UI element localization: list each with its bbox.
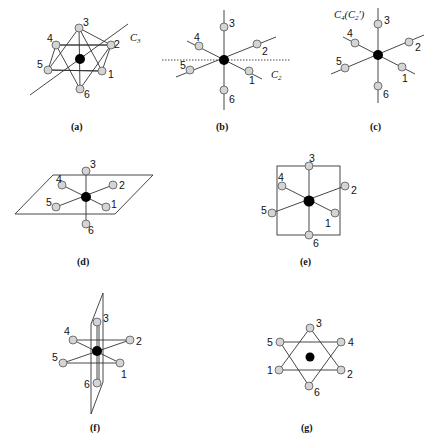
label-3: 3 bbox=[90, 158, 96, 170]
label-6: 6 bbox=[314, 386, 320, 398]
ligand-6 bbox=[305, 231, 313, 239]
label-5: 5 bbox=[336, 55, 342, 67]
ligand-4 bbox=[337, 338, 345, 346]
label-4: 4 bbox=[64, 325, 70, 337]
ligand-4 bbox=[52, 41, 60, 49]
label-6: 6 bbox=[84, 378, 90, 390]
ligand-5 bbox=[276, 338, 284, 346]
panel-b: 3 4 2 5 1 6 C2 (b) bbox=[162, 10, 290, 133]
ligand-1 bbox=[98, 67, 106, 75]
face-triangle-1 bbox=[48, 28, 102, 71]
ligand-2 bbox=[253, 40, 261, 48]
label-2: 2 bbox=[114, 38, 120, 50]
caption-f: (f) bbox=[90, 422, 100, 434]
ligand-1 bbox=[102, 203, 110, 211]
label-4: 4 bbox=[278, 171, 284, 183]
caption-e: (e) bbox=[300, 256, 311, 268]
label-5: 5 bbox=[46, 196, 52, 208]
ligand-6 bbox=[374, 82, 382, 90]
panel-a: 3 4 2 5 1 6 C3 (a) bbox=[30, 16, 141, 133]
label-6: 6 bbox=[383, 88, 389, 100]
label-4: 4 bbox=[348, 336, 354, 348]
label-1: 1 bbox=[249, 74, 255, 86]
label-5: 5 bbox=[267, 336, 273, 348]
label-3: 3 bbox=[384, 14, 390, 26]
ligand-6 bbox=[220, 86, 228, 94]
label-3: 3 bbox=[229, 17, 235, 29]
ligand-4 bbox=[278, 182, 286, 190]
ligand-2 bbox=[126, 336, 134, 344]
ligand-3 bbox=[220, 23, 228, 31]
ligand-4 bbox=[351, 39, 359, 47]
ligand-6 bbox=[93, 379, 101, 387]
label-1: 1 bbox=[267, 364, 273, 376]
metal-center bbox=[304, 196, 315, 207]
label-6: 6 bbox=[229, 93, 235, 105]
ligand-5 bbox=[44, 66, 52, 74]
metal-center bbox=[92, 346, 102, 356]
label-2: 2 bbox=[136, 335, 142, 347]
label-3: 3 bbox=[309, 152, 315, 164]
ligand-2 bbox=[341, 182, 349, 190]
ligand-3 bbox=[374, 20, 382, 28]
ligand-1 bbox=[398, 63, 406, 71]
label-2: 2 bbox=[351, 184, 357, 196]
ligand-3 bbox=[75, 24, 83, 32]
panel-d: 3 4 2 5 1 6 (d) bbox=[15, 158, 153, 268]
ligand-4 bbox=[69, 336, 77, 344]
metal-center bbox=[81, 192, 91, 202]
label-4: 4 bbox=[194, 31, 200, 43]
ligand-5 bbox=[52, 203, 60, 211]
label-6: 6 bbox=[88, 224, 94, 236]
metal-center bbox=[219, 55, 229, 65]
label-2: 2 bbox=[415, 41, 421, 53]
octahedral-symmetry-figure: 3 4 2 5 1 6 C3 (a) 3 4 2 5 1 6 C2 (b) bbox=[0, 0, 434, 447]
ligand-1 bbox=[116, 359, 124, 367]
label-3: 3 bbox=[83, 16, 89, 28]
panel-e: 3 4 2 5 1 6 (e) bbox=[261, 152, 357, 268]
ligand-1 bbox=[275, 366, 283, 374]
axis-label-c2: C2 bbox=[271, 69, 282, 82]
upper-triangle bbox=[279, 328, 341, 370]
metal-center bbox=[373, 50, 383, 60]
ligand-3 bbox=[82, 167, 90, 175]
caption-g: (g) bbox=[301, 422, 313, 434]
label-4: 4 bbox=[47, 32, 53, 44]
label-3: 3 bbox=[103, 312, 109, 324]
lower-triangle bbox=[280, 342, 341, 386]
caption-d: (d) bbox=[77, 256, 89, 268]
label-1: 1 bbox=[108, 68, 114, 80]
label-1: 1 bbox=[402, 72, 408, 84]
panel-g: 3 5 4 1 2 6 (g) bbox=[267, 317, 354, 434]
label-5: 5 bbox=[52, 351, 58, 363]
ligand-1 bbox=[331, 209, 339, 217]
caption-c: (c) bbox=[370, 121, 381, 133]
axis-label-c4: C4(C2′) bbox=[334, 9, 365, 22]
label-1: 1 bbox=[111, 198, 117, 210]
ligand-3 bbox=[93, 318, 101, 326]
ligand-5 bbox=[341, 64, 349, 72]
panel-c: 3 4 2 5 1 6 C4(C2′) (c) bbox=[331, 8, 424, 133]
ligand-5 bbox=[186, 66, 194, 74]
ligand-5 bbox=[59, 359, 67, 367]
label-5: 5 bbox=[261, 204, 267, 216]
label-2: 2 bbox=[347, 368, 353, 380]
label-2: 2 bbox=[119, 179, 125, 191]
label-3: 3 bbox=[316, 317, 322, 329]
ligand-2 bbox=[405, 38, 413, 46]
label-4: 4 bbox=[347, 27, 353, 39]
ligand-2 bbox=[109, 181, 117, 189]
label-6: 6 bbox=[313, 237, 319, 249]
ligand-6 bbox=[305, 382, 313, 390]
ligand-2 bbox=[337, 366, 345, 374]
label-6: 6 bbox=[84, 88, 90, 100]
axis-label-c3: C3 bbox=[130, 32, 141, 45]
ligand-6 bbox=[76, 85, 84, 93]
label-1: 1 bbox=[325, 217, 331, 229]
ligand-4 bbox=[195, 42, 203, 50]
panel-f: 3 4 2 5 1 6 (f) bbox=[52, 293, 142, 434]
label-4: 4 bbox=[56, 173, 62, 185]
ligand-5 bbox=[268, 209, 276, 217]
label-2: 2 bbox=[262, 45, 268, 57]
caption-b: (b) bbox=[216, 121, 228, 133]
